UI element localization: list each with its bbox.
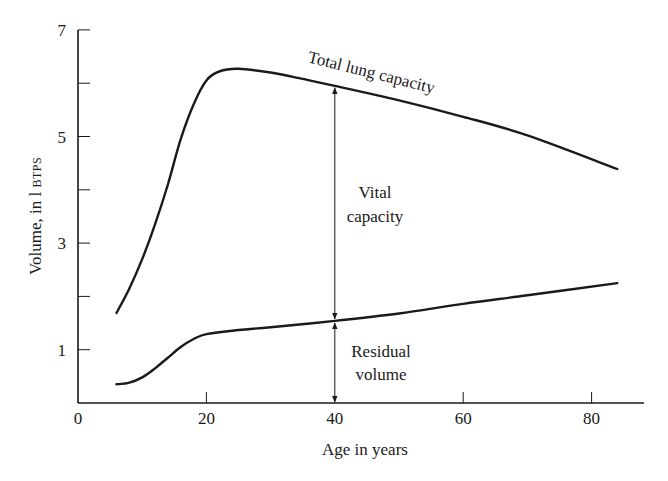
- x-axis-ticks: 020406080: [74, 392, 600, 428]
- residual-volume-label-line1: Residual: [351, 342, 411, 361]
- x-axis-title: Age in years: [322, 440, 408, 459]
- y-tick-label: 7: [58, 21, 67, 40]
- x-tick-label: 40: [326, 409, 343, 428]
- y-tick-label: 3: [58, 234, 67, 253]
- vital-capacity-label-line1: Vital: [359, 183, 392, 202]
- residual-volume-label-line2: volume: [356, 365, 407, 384]
- total-lung-capacity-label: Total lung capacity: [306, 47, 437, 97]
- vital-capacity-label-line2: capacity: [347, 207, 404, 226]
- y-axis-title-main: Volume, in l: [26, 188, 45, 276]
- y-axis-ticks: 1357: [58, 21, 91, 360]
- y-axis: 1357: [58, 21, 91, 403]
- y-tick-label: 5: [58, 128, 67, 147]
- x-tick-label: 60: [455, 409, 472, 428]
- y-tick-label: 1: [58, 341, 67, 360]
- y-axis-title: Volume, in l BTPS: [26, 157, 45, 275]
- y-axis-title-unit: BTPS: [30, 157, 44, 188]
- x-tick-label: 0: [74, 409, 83, 428]
- lung-volume-chart: 1357 020406080 Total lung capacity Vital…: [0, 0, 668, 481]
- x-axis: 020406080: [74, 392, 644, 428]
- x-tick-label: 20: [198, 409, 215, 428]
- x-tick-label: 80: [583, 409, 600, 428]
